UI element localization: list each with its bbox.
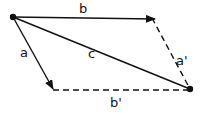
label-a-prime: a' [176, 54, 188, 67]
label-b-prime: b' [110, 96, 122, 109]
label-c: c [88, 47, 95, 60]
vector-c [13, 17, 190, 89]
vector-diagram: b a c a' b' [0, 0, 203, 115]
vector-a [13, 17, 53, 89]
diagram-canvas [0, 0, 203, 115]
vector-b [13, 17, 155, 19]
label-a: a [20, 46, 28, 59]
end-point [187, 86, 193, 92]
label-b: b [79, 2, 87, 15]
